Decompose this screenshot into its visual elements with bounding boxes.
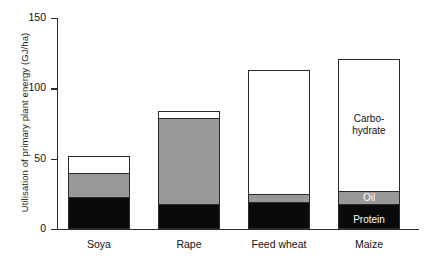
bar-segment-maize-oil: Oil [338,191,400,204]
maize-carbohydrate-label: Carbo- hydrate [339,113,399,137]
bar-segment-soya-protein [68,197,130,229]
y-tick-label-100: 100 [6,81,46,93]
y-tick-mark-0 [51,229,57,230]
bar-segment-soya-carbohydrate [68,156,130,173]
x-axis-line [57,229,419,230]
y-tick-label-150: 150 [6,11,46,23]
bar-segment-maize-protein: Protein [338,204,400,229]
y-tick-label-50: 50 [6,152,46,164]
y-tick-label-0: 0 [6,222,46,234]
maize-oil-label: Oil [339,192,399,204]
y-axis-title: Utilisation of primary plant energy (GJ/… [19,17,30,229]
bar-maize: Carbo- hydrate Oil Protein [338,59,400,229]
carbohydrate-label-line1: Carbo- [339,113,399,125]
bar-feed-wheat [248,70,310,229]
bar-segment-rape-carbohydrate [158,111,220,118]
bar-segment-maize-carbohydrate: Carbo- hydrate [338,59,400,191]
bar-rape [158,111,220,229]
bar-segment-rape-protein [158,204,220,229]
x-axis-label-maize: Maize [314,238,424,250]
bar-soya [68,156,130,229]
bar-segment-feed-wheat-carbohydrate [248,70,310,194]
carbohydrate-label-line2: hydrate [339,125,399,137]
stacked-bar-chart: Utilisation of primary plant energy (GJ/… [0,0,426,262]
bar-segment-rape-oil [158,118,220,204]
bar-segment-feed-wheat-oil [248,194,310,202]
bar-segment-feed-wheat-protein [248,202,310,229]
maize-protein-label: Protein [339,214,399,226]
plot-area: Carbo- hydrate Oil Protein [57,18,419,229]
bar-segment-soya-oil [68,173,130,197]
